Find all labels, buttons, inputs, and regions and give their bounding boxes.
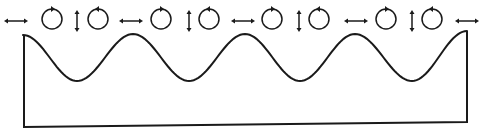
clockwise-orbit-icon xyxy=(262,6,282,29)
counter-clockwise-orbit-icon xyxy=(422,6,442,29)
counter-clockwise-orbit-icon xyxy=(309,6,329,29)
counter-clockwise-orbit-icon xyxy=(88,6,108,29)
diagram-canvas xyxy=(0,0,487,131)
wave-curve xyxy=(23,31,467,81)
surface-wave-diagram: Surface wave particle motion xyxy=(0,0,487,131)
horizontal-double-arrow-icon xyxy=(455,19,479,24)
horizontal-double-arrow-icon xyxy=(344,19,368,24)
medium-boundary xyxy=(24,31,467,127)
counter-clockwise-orbit-icon xyxy=(199,6,219,29)
vertical-double-arrow-icon xyxy=(410,10,415,32)
horizontal-double-arrow-icon xyxy=(119,19,143,24)
vertical-double-arrow-icon xyxy=(187,10,192,32)
particle-motion-indicators xyxy=(4,6,479,32)
clockwise-orbit-icon xyxy=(42,6,62,29)
horizontal-double-arrow-icon xyxy=(4,19,28,24)
wave-surface xyxy=(23,31,467,81)
boundary-outline xyxy=(24,31,467,127)
vertical-double-arrow-icon xyxy=(75,10,80,32)
horizontal-double-arrow-icon xyxy=(231,19,255,24)
clockwise-orbit-icon xyxy=(151,6,171,29)
clockwise-orbit-icon xyxy=(376,6,396,29)
vertical-double-arrow-icon xyxy=(297,10,302,32)
